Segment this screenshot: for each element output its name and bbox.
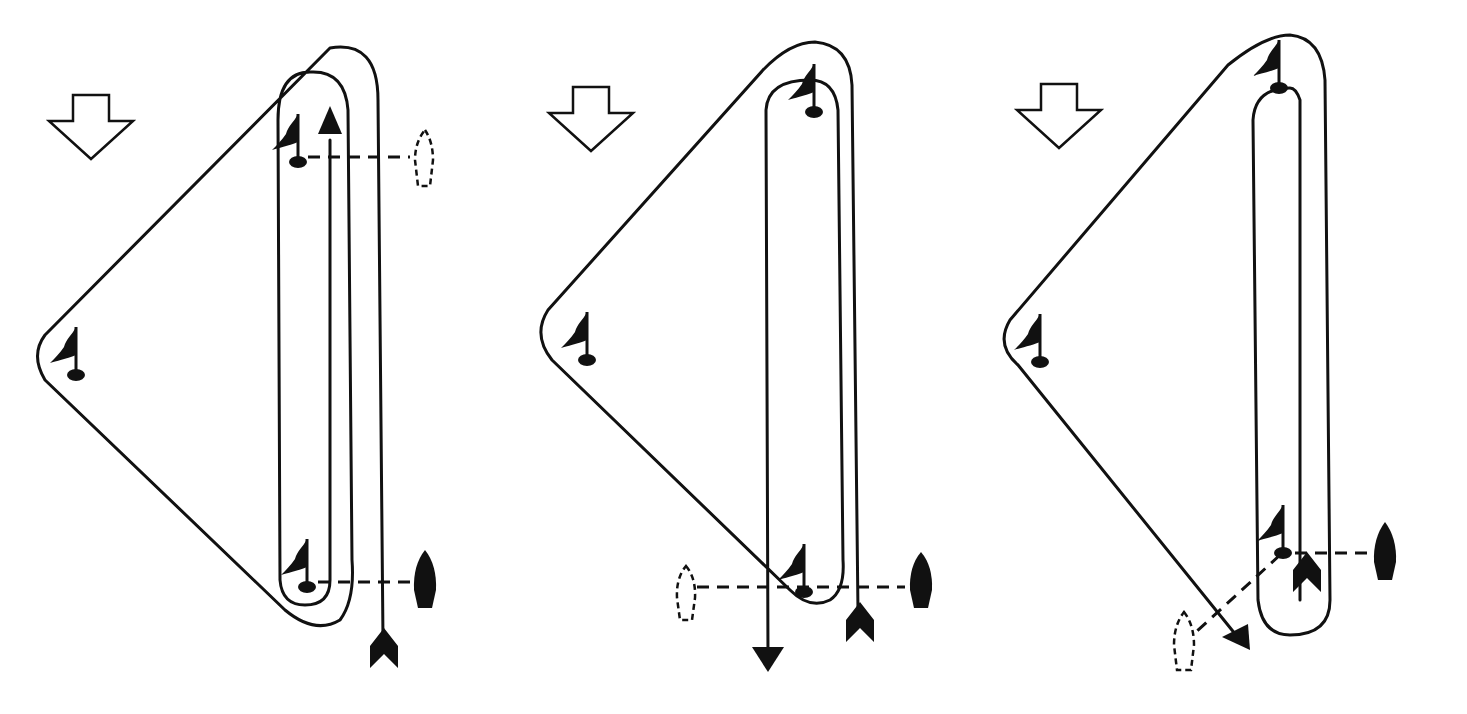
finish-arrowhead (1222, 624, 1250, 650)
mark-flag-icon (778, 544, 813, 598)
mark-flag-icon (281, 539, 316, 593)
start-chevron-icon (846, 602, 874, 642)
wind-arrow-icon (49, 95, 133, 159)
wind-arrow-icon (1017, 84, 1101, 148)
mark-flag-icon (1257, 505, 1292, 559)
mark-flag-icon (1253, 40, 1288, 94)
start-chevron-icon (1293, 552, 1321, 592)
wind-arrow-icon (549, 87, 633, 151)
start-chevron-icon (370, 628, 398, 668)
race-course-diagrams (0, 0, 1467, 714)
finish-boat-outline-icon (1174, 612, 1194, 670)
mark-flag-icon (1014, 314, 1049, 368)
finish-boat-outline-icon (415, 130, 433, 186)
committee-boat-icon (1374, 522, 1396, 580)
course-diagram-1 (38, 47, 437, 668)
pin-boat-outline-icon (677, 566, 695, 620)
committee-boat-icon (414, 550, 436, 608)
mark-flag-icon (561, 312, 596, 366)
finish-arrowhead (318, 106, 342, 134)
committee-boat-icon (910, 552, 932, 608)
mark-flag-icon (788, 64, 823, 118)
mark-flag-icon (50, 327, 85, 381)
course-diagram-2 (541, 42, 932, 672)
finish-line (1196, 555, 1280, 632)
course-diagram-3 (1004, 35, 1396, 670)
finish-arrowhead (752, 647, 784, 672)
